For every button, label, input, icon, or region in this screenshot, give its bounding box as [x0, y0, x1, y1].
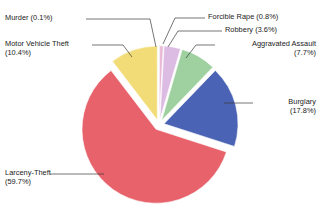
leader-line-murder [86, 19, 156, 47]
pie-slices-group [82, 46, 238, 203]
slice-label-aggravated-assault: Aggravated Assault (7.7%) [208, 39, 316, 58]
slice-label-burglary: Burglary (17.8%) [240, 97, 316, 116]
pie-chart-figure: Murder (0.1%) Motor Vehicle Theft (10.4%… [0, 0, 318, 219]
slice-label-motor-vehicle-theft: Motor Vehicle Theft (10.4%) [5, 39, 95, 58]
slice-label-larceny-theft: Larceny-Theft (59.7%) [5, 168, 95, 187]
slice-label-robbery: Robbery (3.6%) [225, 25, 317, 34]
slice-label-forcible-rape: Forcible Rape (0.8%) [208, 12, 316, 21]
slice-label-murder: Murder (0.1%) [5, 13, 87, 22]
